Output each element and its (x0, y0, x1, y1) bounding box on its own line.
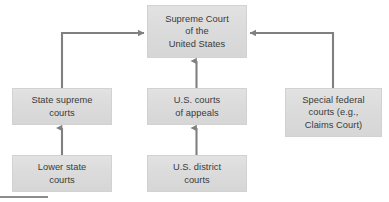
node-lower-state-courts: Lower state courts (12, 155, 112, 192)
node-state-supreme-courts: State supreme courts (12, 88, 112, 125)
node-supreme-court-label: Supreme Court of the United States (162, 13, 232, 50)
node-supreme-court: Supreme Court of the United States (147, 5, 247, 58)
footer-divider-rule (0, 196, 48, 198)
node-us-courts-of-appeals: U.S. courts of appeals (147, 88, 247, 125)
node-us-district-courts-label: U.S. district courts (170, 161, 224, 186)
node-us-district-courts: U.S. district courts (147, 155, 247, 192)
node-special-federal-courts: Special federal courts (e.g., Claims Cou… (285, 88, 382, 137)
edge-state-supreme-to-supreme-court (62, 33, 144, 88)
node-us-courts-of-appeals-label: U.S. courts of appeals (171, 94, 224, 119)
node-state-supreme-courts-label: State supreme courts (28, 94, 95, 119)
court-system-diagram: Supreme Court of the United States State… (0, 0, 389, 202)
node-lower-state-courts-label: Lower state courts (35, 161, 90, 186)
node-special-federal-courts-label: Special federal courts (e.g., Claims Cou… (299, 94, 367, 131)
edge-special-federal-to-supreme-court (250, 33, 333, 88)
